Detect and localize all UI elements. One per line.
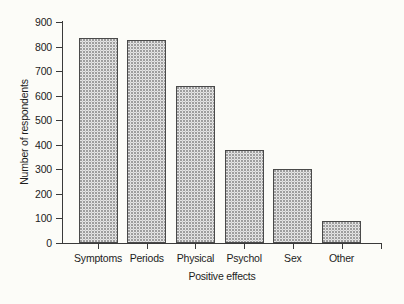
- y-axis-title: Number of respondents: [18, 42, 30, 222]
- y-tick-label: 900: [16, 17, 52, 27]
- bar-other: [322, 221, 361, 243]
- x-tick-mark: [195, 244, 196, 249]
- bar-psychol: [225, 150, 264, 243]
- bar-physical: [176, 86, 215, 243]
- x-tick-mark: [98, 244, 99, 249]
- x-tick-mark: [147, 244, 148, 249]
- y-tick-mark: [56, 243, 62, 244]
- x-tick-label: Other: [312, 252, 372, 264]
- x-tick-mark: [244, 244, 245, 249]
- x-axis-line: [62, 243, 382, 244]
- x-tick-mark: [342, 244, 343, 249]
- bar-symptoms: [79, 38, 118, 243]
- plot-area: [62, 22, 381, 243]
- bar-chart: 0100200300400500600700800900 SymptomsPer…: [0, 0, 404, 304]
- x-axis-end-tick: [381, 244, 382, 249]
- x-axis-title: Positive effects: [62, 270, 382, 282]
- bar-sex: [273, 169, 312, 243]
- bar-periods: [127, 40, 166, 243]
- y-tick-label: 0: [16, 238, 52, 248]
- x-tick-mark: [293, 244, 294, 249]
